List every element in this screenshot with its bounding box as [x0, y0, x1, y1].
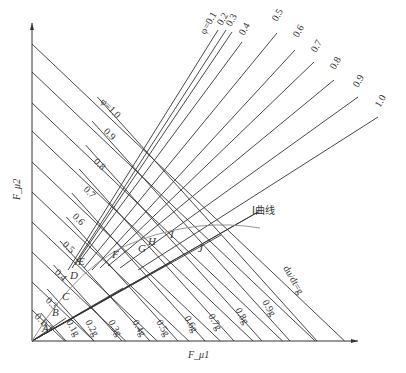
f-line-label: φ=1.0: [99, 96, 124, 121]
point-label-e: E: [77, 255, 85, 267]
g-line: [92, 121, 290, 341]
r-line-label: 0.8: [327, 55, 343, 71]
point-label-f: F: [111, 248, 119, 260]
g-line-label: 0.7g: [206, 312, 224, 333]
r-line-label: 0.7: [308, 38, 324, 54]
r-line: [138, 117, 378, 270]
f-line-label: 0.7: [82, 184, 99, 201]
g-line-label: 0.5g: [154, 318, 172, 339]
point-label-h: H: [147, 235, 157, 247]
g-line-label: 0.1g: [64, 318, 82, 339]
y-axis-label: F_μ2: [11, 179, 22, 201]
point-label-a: A: [41, 322, 49, 334]
x-axis-arrow-icon: [351, 339, 358, 343]
g-line-label: 0.6g: [182, 314, 200, 335]
diagram-canvas: F_μ1F_μ2φ=1.00.90.80.70.60.50.40.30.20.1…: [0, 0, 406, 373]
r-line-label: 1.0: [372, 93, 388, 109]
r-line-label: 0.5: [269, 7, 285, 23]
r-line-label: 0.4: [236, 21, 252, 37]
point-label-d: D: [69, 269, 78, 281]
f-line-label: 0.4: [53, 267, 70, 284]
g-line-label: 0.3g: [106, 318, 124, 339]
y-axis-arrow-icon: [30, 23, 34, 30]
g-line-label: du/dt=g: [281, 264, 306, 297]
i-curve-label: I曲线: [252, 204, 275, 216]
braking-force-diagram: F_μ1F_μ2φ=1.00.90.80.70.60.50.40.30.20.1…: [0, 0, 406, 373]
f-line: [32, 103, 283, 341]
g-line-label: 0.2g: [83, 318, 101, 339]
x-axis-label: F_μ1: [187, 349, 209, 360]
g-line-label: 0.4g: [130, 318, 148, 339]
f-line-label: 0.8: [92, 156, 109, 173]
point-label-g: G: [138, 242, 146, 254]
r-line: [79, 42, 242, 262]
g-line-label: 0.9g: [260, 298, 278, 319]
r-line: [75, 32, 232, 265]
r-line: [108, 80, 334, 266]
f-line-label: 0.5: [61, 239, 78, 256]
point-label-b: B: [52, 306, 59, 318]
g-line: [97, 97, 317, 341]
r-line: [92, 50, 295, 270]
point-label-c: C: [62, 290, 70, 302]
r-line-label: 0.9: [350, 73, 366, 89]
r-line-label: 0.6: [290, 23, 306, 39]
